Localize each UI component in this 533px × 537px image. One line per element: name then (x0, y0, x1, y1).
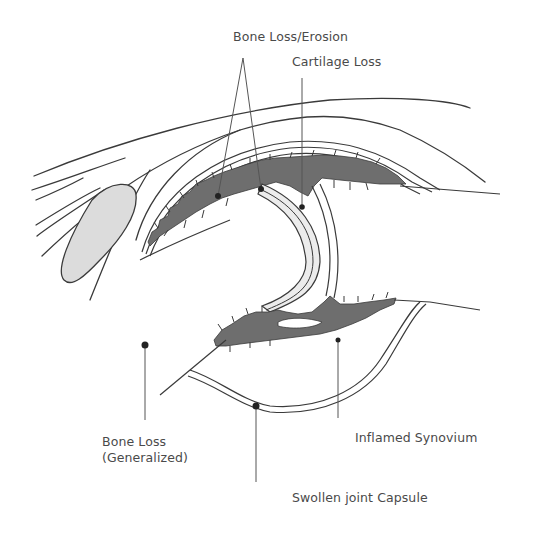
label-cartilage-loss: Cartilage Loss (292, 54, 381, 70)
marker-dot (336, 338, 341, 343)
label-bone-erosion: Bone Loss/Erosion (233, 29, 348, 45)
cartilage (258, 184, 320, 312)
joint-diagram (0, 0, 533, 537)
bone-surface-lower (160, 340, 226, 395)
marker-dot (299, 204, 305, 210)
marker-dot (258, 186, 264, 192)
fat-pad (61, 184, 136, 282)
marker-dot (142, 342, 149, 349)
label-bone-loss-line2: (Generalized) (102, 450, 188, 466)
marker-dot (215, 193, 221, 199)
tendon-line (32, 158, 125, 190)
label-bone-loss-line1: Bone Loss (102, 434, 166, 450)
bone-surface-lower-right (394, 300, 480, 310)
marker-dot (253, 403, 260, 410)
bone-surface-right (400, 186, 500, 194)
label-inflamed-synovium: Inflamed Synovium (355, 430, 478, 446)
label-swollen-capsule: Swollen joint Capsule (292, 490, 428, 506)
